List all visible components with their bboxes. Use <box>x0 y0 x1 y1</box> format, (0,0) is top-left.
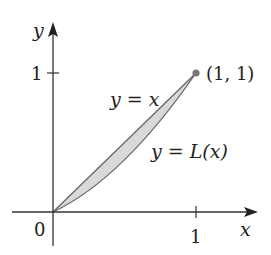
x-tick-label: 1 <box>190 226 201 247</box>
diagram-canvas: y 1 0 1 x (1, 1) y = x y = L(x) <box>0 0 271 255</box>
line-of-equality-label: y = x <box>109 88 160 110</box>
y-tick-label: 1 <box>31 63 42 84</box>
origin-label: 0 <box>34 219 45 240</box>
x-axis-label: x <box>240 218 251 240</box>
point-label: (1, 1) <box>206 63 254 84</box>
lorenz-curve-label: y = L(x) <box>150 140 228 162</box>
point-marker-icon <box>192 69 199 76</box>
y-axis-label: y <box>32 19 44 41</box>
